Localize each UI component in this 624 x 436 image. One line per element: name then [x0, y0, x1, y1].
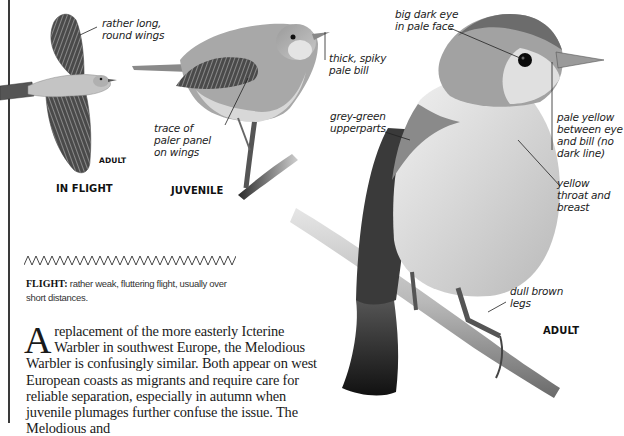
caption-flight-adult: ADULT: [99, 156, 126, 165]
in-flight-bird: [0, 14, 117, 173]
annotation-lores: pale yellow between eye and bill (no dar…: [557, 111, 623, 159]
flight-note: FLIGHT: rather weak, fluttering flight, …: [26, 277, 246, 305]
annotation-bill: thick, spiky pale bill: [329, 52, 386, 76]
juvenile-perch: [246, 118, 255, 188]
body-paragraph-text: replacement of the more easterly Icterin…: [26, 323, 317, 436]
caption-in-flight: IN FLIGHT: [56, 183, 113, 194]
flight-pattern-zigzag-icon: [24, 255, 236, 267]
caption-adult: ADULT: [543, 325, 579, 336]
annotation-pale-panel: trace of paler panel on wings: [154, 122, 211, 158]
caption-juvenile: JUVENILE: [171, 185, 224, 196]
annotation-throat: yellow throat and breast: [557, 177, 610, 213]
annotation-upperparts: grey-green upperparts: [330, 110, 386, 134]
drop-cap: A: [24, 325, 51, 355]
body-paragraph: Areplacement of the more easterly Icteri…: [26, 323, 326, 436]
annotation-eye: big dark eye in pale face: [395, 8, 458, 32]
annotation-wings: rather long, round wings: [102, 17, 164, 41]
flight-note-label: FLIGHT:: [26, 278, 67, 289]
annotation-legs: dull brown legs: [510, 285, 563, 309]
